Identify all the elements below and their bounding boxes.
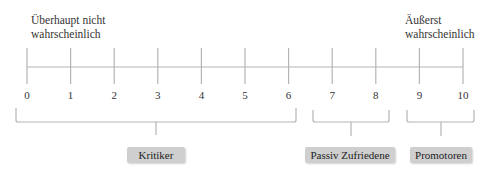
bracket-kritiker — [16, 108, 296, 135]
scale-graphic — [0, 0, 491, 170]
tick-label-10: 10 — [453, 89, 473, 101]
group-label-passiv-zufriedene: Passiv Zufriedene — [305, 147, 395, 163]
tick-label-5: 5 — [235, 89, 255, 101]
tick-label-9: 9 — [409, 89, 429, 101]
tick-label-1: 1 — [61, 89, 81, 101]
tick-label-0: 0 — [17, 89, 37, 101]
group-label-promotoren: Promotoren — [410, 147, 472, 163]
tick-label-4: 4 — [191, 89, 211, 101]
group-label-kritiker: Kritiker — [127, 147, 185, 163]
tick-label-8: 8 — [366, 89, 386, 101]
tick-label-3: 3 — [148, 89, 168, 101]
bracket-promotoren — [407, 110, 474, 136]
tick-label-2: 2 — [104, 89, 124, 101]
tick-label-7: 7 — [322, 89, 342, 101]
tick-label-6: 6 — [279, 89, 299, 101]
bracket-passiv — [313, 110, 389, 136]
